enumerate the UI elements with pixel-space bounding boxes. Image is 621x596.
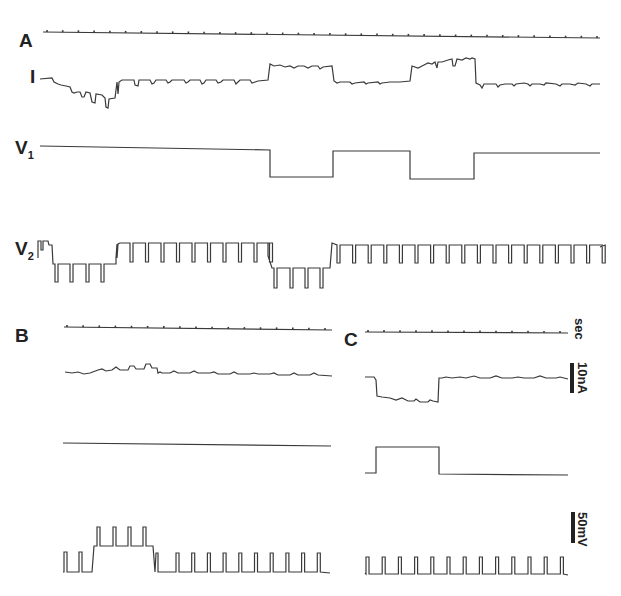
panel-c-current-trace — [365, 376, 568, 402]
panel-a-current-trace — [40, 58, 600, 108]
panel-a-v1-trace — [40, 146, 600, 179]
figure: A I V1 V2 B C sec 10nA 50mV — [0, 0, 621, 596]
panel-c-v2-trace — [365, 557, 568, 575]
panel-b-timebase — [64, 325, 332, 330]
panel-c-timebase — [365, 330, 568, 333]
current-scale-bar — [570, 363, 574, 393]
panel-c-v1-trace — [365, 447, 568, 475]
panel-b-v1-trace — [63, 443, 331, 446]
panel-b-current-trace — [65, 364, 332, 376]
panel-b-v2-trace — [63, 527, 330, 573]
panel-a-timebase — [43, 30, 600, 38]
panel-a-v2-trace — [38, 241, 605, 288]
voltage-scale-bar — [571, 512, 575, 543]
traces-svg — [0, 0, 621, 596]
